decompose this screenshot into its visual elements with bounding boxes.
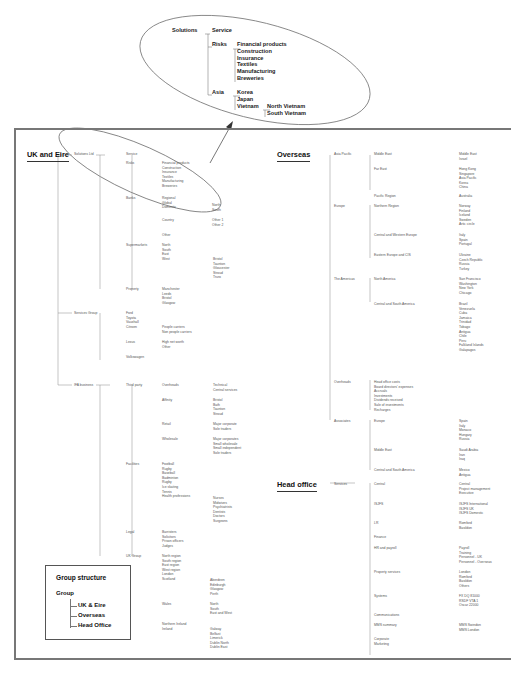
node-australia: Australia (459, 194, 472, 199)
domestic-list: North South (212, 203, 221, 212)
node-middle-east: Middle East (374, 152, 392, 157)
ni-ireland-list: Northern Ireland Ireland (162, 622, 187, 631)
property-services-list: London Romford Basildon Others (459, 570, 472, 588)
node-mms-summary: MMS summary (374, 623, 397, 628)
assoc-middle-east-list: Saudi Arabia Iran Iraq (459, 448, 478, 462)
banks-list: Regional Global Domestic (162, 196, 176, 210)
section-title-uk: UK and Eire (27, 150, 69, 162)
property-list: Manchester Leeds Bristol Glasgow (162, 287, 180, 305)
callout-vietnam-list: North Vietnam South Vietnam (267, 103, 306, 117)
node-country: Country (162, 218, 174, 223)
facilities-list: Football Rugby Baseball Badminton Rugby … (162, 462, 190, 499)
callout-risks-list: Financial products Construction Insuranc… (237, 41, 287, 82)
node-finance: Finance (374, 535, 386, 540)
northern-list: Norway Finland Iceland Sweden Artic circ… (459, 204, 475, 227)
systems-list: FX DQ 81000 RSDF VTA 1 Oscar 22000 (459, 594, 480, 608)
node-systems: Systems (374, 594, 387, 599)
node-americas: The Americas (334, 277, 355, 282)
node-asia-pacific: Asia Pacific (334, 152, 352, 157)
node-isjfs: ISJFS (374, 502, 383, 507)
eastern-list: Ukraine Czech Republic Russia Turkey (459, 253, 483, 271)
node-risks: Risks (126, 161, 134, 166)
node-associates: Associates (334, 419, 350, 424)
health-list: Nurses Midwives Psychiatrists Dentists D… (213, 496, 232, 524)
isjfs-list: ISJFS International ISJFS UK ISJFS Domes… (459, 502, 488, 516)
callout-root: Solutions (172, 27, 197, 34)
node-wales: Wales (162, 602, 171, 607)
scotland-list: Aberdeen Edinburgh Glasgow Perth (210, 578, 225, 596)
services-group-list: Ford Toyota Vauxhall Citroen (126, 311, 139, 329)
node-lexus: Lexus (126, 340, 135, 345)
retail-list: Major corporate Sole traders (213, 422, 237, 431)
node-pacific-region: Pacific Region (374, 194, 396, 199)
node-central-south-america: Central and South America (374, 302, 415, 307)
overheads-list: Technical Central services (213, 383, 237, 392)
node-affinity: Affinity (162, 398, 172, 403)
node-facilities: Facilities (126, 462, 139, 467)
mms-list: MMS Swindon MMS London (459, 623, 481, 632)
legend-item-head-office: Head Office (78, 622, 111, 628)
wales-list: North South East and West (210, 602, 232, 616)
node-solutions-ltd: Solutions Ltd (74, 152, 94, 157)
risks-list: Financial products Construction Insuranc… (162, 161, 190, 189)
node-services: Services (334, 482, 347, 487)
node-supermarkets: Supermarkets (126, 243, 147, 248)
section-title-overseas: Overseas (277, 150, 310, 162)
node-assoc-csa: Central and South America (374, 468, 415, 473)
section-title-head-office: Head office (277, 480, 317, 492)
node-assoc-middle-east: Middle East (374, 448, 392, 453)
node-wholesale: Wholesale (162, 437, 178, 442)
node-central: Central (374, 482, 385, 487)
assoc-europe-list: Spain Italy Monaco Hungary Russia (459, 419, 472, 442)
node-europe: Europe (334, 204, 345, 209)
wholesale-list: Major corporates Small wholesale Small i… (213, 437, 241, 455)
node-central-western-europe: Central and Western Europe (374, 233, 417, 238)
node-hr-payroll: HR and payroll (374, 546, 396, 551)
assoc-csa-list: Mexico Antigua (459, 468, 471, 477)
node-north-america: North America (374, 277, 395, 282)
node-overheads: Overheads (162, 383, 179, 388)
node-other: Other (162, 233, 170, 238)
legend-connector (70, 599, 71, 628)
legend-root: Group (56, 590, 74, 596)
west-list: Bristol Taunton Gloucester Stroud Truro (213, 257, 229, 280)
hr-list: Payroll Training Personnel - UK Personne… (459, 546, 492, 564)
node-uk-group: UK Group (126, 554, 141, 559)
corporate-marketing: Corporate Marketing (374, 637, 389, 646)
far-east-list: Hong Kong Singapore Asia Pacific Korea C… (459, 167, 477, 190)
legal-list: Barristers Solicitors Prison officers Ju… (162, 530, 183, 548)
node-far-east: Far East (374, 167, 387, 172)
uk-group-list: North region South region East region We… (162, 554, 181, 582)
node-service: Service (126, 152, 137, 157)
legend-item-overseas: Overseas (78, 612, 105, 618)
node-services-group: Services Group (74, 311, 97, 316)
node-lr: LR (374, 521, 378, 526)
central-ho-list: Central Project management Executive (459, 482, 490, 496)
callout-asia-list: Korea Japan Vietnam (237, 89, 259, 109)
legend-box: Group structure Group UK & Eire Overseas… (45, 565, 131, 640)
node-third-party: Third party (126, 383, 142, 388)
country-list: Other 1 Other 2 (212, 218, 223, 227)
callout-asia: Asia (212, 89, 224, 96)
node-overheads-overseas: Overheads (334, 380, 351, 385)
legend-title: Group structure (56, 574, 106, 581)
middle-east-list: Middle East Israel (459, 152, 477, 161)
node-legal: Legal (126, 530, 134, 535)
node-eastern-europe: Eastern Europe and CIS (374, 253, 411, 258)
node-communications: Communications (374, 613, 399, 618)
lexus-list: High net worth Other (162, 340, 184, 349)
callout-service: Service (212, 27, 232, 34)
legend-item-uk: UK & Eire (78, 602, 106, 608)
node-volkswagen: Volkswagen (126, 355, 144, 360)
overheads-overseas-list: Head office costs Board directors' expen… (374, 380, 413, 412)
citroen-list: People carriers Non people carriers (162, 325, 192, 334)
node-property-services: Property services (374, 570, 400, 575)
node-property: Property (126, 287, 139, 292)
node-northern-region: Northern Region (374, 204, 399, 209)
node-retail: Retail (162, 422, 171, 427)
central-list: Italy Spain Portugal (459, 233, 472, 247)
callout-risks: Risks (212, 41, 227, 48)
supermarkets-list: North South East West (162, 243, 171, 261)
ireland-list: Galway Belfast Limerick Dublin North Dub… (210, 627, 229, 650)
node-banks: Banks (126, 196, 135, 201)
